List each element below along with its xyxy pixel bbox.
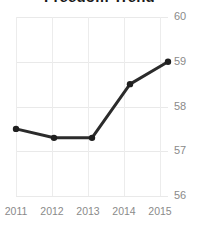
line-chart: Freedom Trend 60 59 58 57 56 2011 2012 2…	[0, 0, 199, 225]
data-point	[127, 81, 133, 87]
x-axis-tick-label: 2015	[140, 206, 180, 217]
data-point	[13, 126, 19, 132]
y-axis-tick-label: 57	[174, 145, 198, 156]
x-axis-tick-label: 2014	[104, 206, 144, 217]
data-point	[89, 135, 95, 141]
series-markers	[13, 59, 171, 141]
data-point	[51, 135, 57, 141]
y-axis-tick-label: 59	[174, 56, 198, 67]
y-axis-tick-label: 60	[174, 11, 198, 22]
series-line	[16, 62, 168, 138]
gridline-horizontal	[16, 196, 168, 197]
y-axis-tick-label: 56	[174, 190, 198, 201]
data-point	[165, 59, 171, 65]
x-axis-tick-label: 2011	[0, 206, 36, 217]
x-axis-tick-label: 2013	[68, 206, 108, 217]
data-series-freedom-score	[16, 17, 168, 196]
plot-area	[16, 17, 168, 196]
chart-title: Freedom Trend	[0, 0, 199, 5]
y-axis-tick-label: 58	[174, 101, 198, 112]
x-axis-tick-label: 2012	[32, 206, 72, 217]
